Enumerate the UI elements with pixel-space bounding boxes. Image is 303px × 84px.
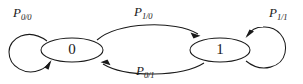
edge-label-transition-1-to-0: P0/1 bbox=[136, 64, 154, 79]
edge-label-self-loop-1-base: P bbox=[269, 5, 277, 20]
edge-label-self-loop-1: P1/1 bbox=[269, 6, 287, 21]
diagram-canvas: 0 1 P0/0 P1/0 P0/1 P1/1 bbox=[0, 0, 303, 84]
edge-label-self-loop-0-subscript: 0/0 bbox=[21, 12, 31, 22]
self-loop-1-arrowhead bbox=[246, 30, 255, 39]
node-state0[interactable]: 0 bbox=[41, 38, 103, 62]
edge-label-transition-0-to-1: P1/0 bbox=[134, 5, 152, 20]
edge-label-transition-1-to-0-subscript: 0/1 bbox=[144, 70, 154, 80]
edge-label-transition-1-to-0-base: P bbox=[136, 63, 144, 78]
edge-label-transition-0-to-1-base: P bbox=[134, 4, 142, 19]
edge-label-self-loop-0: P0/0 bbox=[13, 6, 31, 21]
node-state0-label: 0 bbox=[68, 41, 76, 57]
node-state1[interactable]: 1 bbox=[190, 38, 250, 62]
edge-label-transition-0-to-1-subscript: 1/0 bbox=[142, 11, 152, 21]
edge-label-self-loop-1-subscript: 1/1 bbox=[277, 12, 287, 22]
node-state1-label: 1 bbox=[216, 41, 224, 57]
transition-0-to-1-path bbox=[97, 25, 198, 40]
transition-0-to-1-arrowhead bbox=[191, 33, 201, 39]
transition-1-to-0-arrowhead bbox=[101, 59, 111, 65]
edge-label-self-loop-0-base: P bbox=[13, 5, 21, 20]
self-loop-0-arrowhead bbox=[45, 60, 52, 70]
self-loop-1-edge bbox=[246, 27, 286, 68]
transition-0-to-1-edge bbox=[97, 25, 201, 40]
